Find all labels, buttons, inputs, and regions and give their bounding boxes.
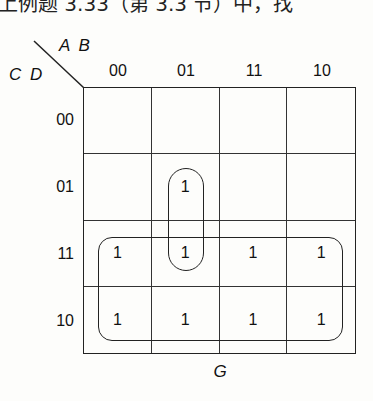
row-label: 10 <box>34 312 74 330</box>
function-label: G <box>210 362 230 382</box>
row-label: 00 <box>34 111 74 129</box>
group-loop-horizontal-octet <box>98 237 343 341</box>
kmap-cell <box>287 154 355 220</box>
kmap-cell <box>287 88 355 154</box>
column-label: 10 <box>288 62 356 80</box>
kmap-cell <box>152 88 220 154</box>
row-label: 11 <box>34 245 74 263</box>
column-variables-label: A B <box>59 36 92 56</box>
column-label: 11 <box>220 62 288 80</box>
kmap-cell <box>220 88 288 154</box>
kmap-cell <box>84 88 152 154</box>
row-variables-label: C D <box>9 65 44 85</box>
column-label: 00 <box>84 62 152 80</box>
row-label: 01 <box>34 178 74 196</box>
column-label: 01 <box>152 62 220 80</box>
kmap-cell <box>84 154 152 220</box>
kmap-cell <box>220 154 288 220</box>
